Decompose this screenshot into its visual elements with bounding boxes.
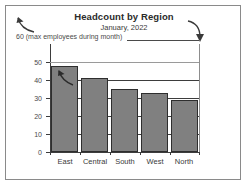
x-tick-2	[110, 152, 111, 155]
y-tick-40	[46, 80, 50, 81]
bar-south[interactable]	[111, 89, 138, 152]
x-axis-line	[50, 152, 200, 153]
x-axis-label-south: South	[110, 157, 140, 166]
y-tick-50	[46, 62, 50, 63]
x-tick-5	[199, 152, 200, 155]
x-axis-label-north: North	[169, 157, 199, 166]
bar-west[interactable]	[141, 93, 168, 152]
curved-arrow-down-icon	[184, 18, 208, 44]
curved-arrow-up-left-icon	[14, 14, 40, 36]
x-tick-1	[80, 152, 81, 155]
x-tick-0	[50, 152, 51, 155]
y-axis-label-0: 0	[16, 149, 42, 156]
chart-frame: Headcount by Region January, 2022 60 (ma…	[5, 5, 241, 180]
y-tick-10	[46, 134, 50, 135]
gridline-50	[50, 62, 199, 63]
x-axis-label-east: East	[50, 157, 80, 166]
bar-north[interactable]	[171, 100, 198, 152]
y-axis-label-30: 30	[16, 95, 42, 102]
bar-central[interactable]	[81, 78, 108, 152]
x-tick-3	[140, 152, 141, 155]
y-tick-30	[46, 98, 50, 99]
y-axis-label-20: 20	[16, 113, 42, 120]
y-axis-label-10: 10	[16, 131, 42, 138]
y-axis-label-40: 40	[16, 77, 42, 84]
plot-area	[50, 44, 199, 152]
y-axis-label-50: 50	[16, 59, 42, 66]
x-axis-label-west: West	[140, 157, 170, 166]
y-tick-20	[46, 116, 50, 117]
bar-chart: Headcount by Region January, 2022 60 (ma…	[6, 6, 242, 181]
plot-right-border	[199, 44, 200, 153]
x-axis-label-central: Central	[80, 157, 110, 166]
curved-arrow-in-bar-icon	[56, 68, 78, 90]
x-tick-4	[170, 152, 171, 155]
